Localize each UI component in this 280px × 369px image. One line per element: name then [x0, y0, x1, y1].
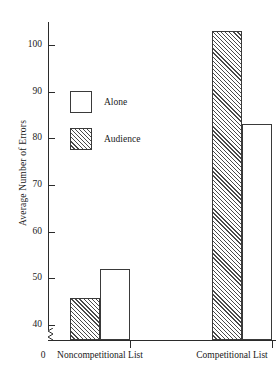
y-tick-80 — [49, 138, 55, 139]
y-tick-label-40-wrap: 40 — [18, 320, 42, 330]
x-axis-line — [48, 340, 276, 341]
bar-audience-noncompetitional — [70, 298, 100, 340]
bar-alone-noncompetitional — [100, 269, 130, 340]
x-axis-label-noncompetitional: Noncompetitional List — [40, 350, 160, 361]
y-axis-line — [48, 22, 49, 330]
y-tick-label-40: 40 — [18, 320, 42, 330]
y-tick-label-100: 100 — [18, 40, 42, 50]
y-tick-70 — [49, 185, 55, 186]
y-tick-label-70-wrap: 70 — [18, 180, 42, 190]
x-axis-label-competitional: Competitional List — [182, 350, 280, 361]
x-tick-noncompetitional — [130, 341, 131, 348]
y-tick-100 — [49, 45, 55, 46]
y-tick-label-90-wrap: 90 — [18, 87, 42, 97]
legend-label-audience: Audience — [104, 134, 140, 144]
y-tick-label-60-wrap: 60 — [18, 227, 42, 237]
x-tick-competitional — [272, 341, 273, 348]
y-tick-label-60: 60 — [18, 227, 42, 237]
legend-label-alone: Alone — [104, 97, 127, 107]
y-tick-label-90: 90 — [18, 87, 42, 97]
bar-audience-competitional — [212, 31, 242, 340]
y-axis-break-icon — [43, 328, 55, 342]
legend-swatch-audience-icon — [70, 128, 92, 150]
y-tick-50 — [49, 278, 55, 279]
bar-chart: Average Number of Errors 100 90 80 70 60… — [0, 0, 280, 369]
y-tick-90 — [49, 92, 55, 93]
legend-swatch-alone-icon — [70, 91, 92, 113]
y-tick-label-50-wrap: 50 — [18, 273, 42, 283]
y-tick-label-50: 50 — [18, 273, 42, 283]
y-tick-40 — [49, 325, 55, 326]
bar-alone-competitional — [242, 124, 272, 340]
y-tick-60 — [49, 232, 55, 233]
y-tick-label-80-wrap: 80 — [18, 133, 42, 143]
y-tick-label-80: 80 — [18, 133, 42, 143]
y-tick-label-70: 70 — [18, 180, 42, 190]
legend-item-alone: Alone — [70, 91, 127, 113]
legend-item-audience: Audience — [70, 128, 140, 150]
y-tick-label-100-wrap: 100 — [18, 40, 42, 50]
